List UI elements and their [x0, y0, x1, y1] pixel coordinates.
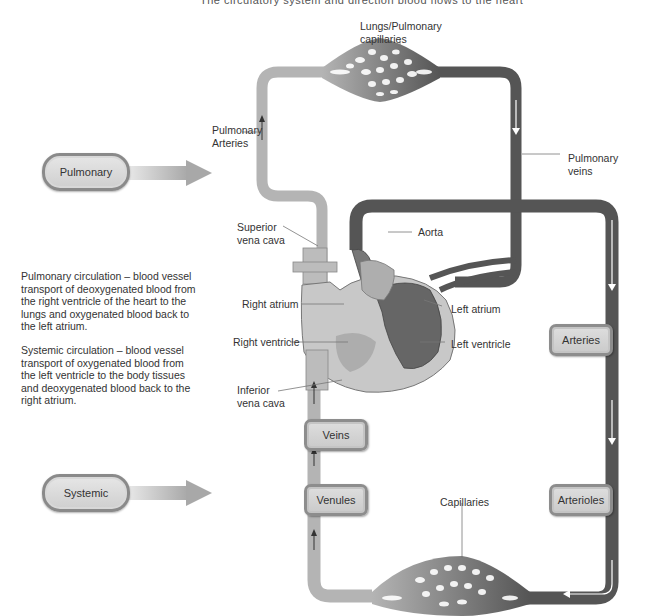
pulmonary-circuit-pill: Pulmonary: [42, 153, 130, 191]
label-right-atrium: Right atrium: [242, 298, 299, 311]
circulatory-diagram: The circulatory system and direction blo…: [0, 0, 658, 616]
node-venules: Venules: [304, 484, 368, 516]
label-pulmonary-veins: Pulmonary veins: [568, 152, 618, 178]
label-aorta: Aorta: [418, 226, 443, 239]
systemic-description: Systemic circulation – blood vessel tran…: [21, 344, 201, 407]
label-right-ventricle: Right ventricle: [233, 336, 300, 349]
pulmonary-vein-vessel: [430, 72, 516, 282]
label-left-atrium: Left atrium: [451, 303, 501, 316]
node-arterioles: Arterioles: [549, 484, 613, 516]
label-lungs: Lungs/Pulmonary capillaries: [360, 20, 442, 46]
label-superior-vena-cava: Superior vena cava: [237, 221, 285, 247]
node-veins: Veins: [304, 419, 368, 451]
label-left-ventricle: Left ventricle: [451, 338, 511, 351]
systemic-capillaries: [372, 556, 530, 616]
systemic-circuit-pill: Systemic: [42, 474, 130, 512]
heart: [293, 248, 455, 392]
pulmonary-description: Pulmonary circulation – blood vessel tra…: [21, 270, 201, 333]
label-capillaries: Capillaries: [440, 496, 489, 509]
label-pulmonary-arteries: Pulmonary Arteries: [212, 124, 262, 150]
systemic-arrow: [128, 480, 212, 506]
node-arteries: Arteries: [549, 324, 613, 356]
label-inferior-vena-cava: Inferior vena cava: [237, 384, 285, 410]
lung-capillaries: [322, 38, 440, 102]
pulmonary-arrow: [128, 160, 212, 186]
